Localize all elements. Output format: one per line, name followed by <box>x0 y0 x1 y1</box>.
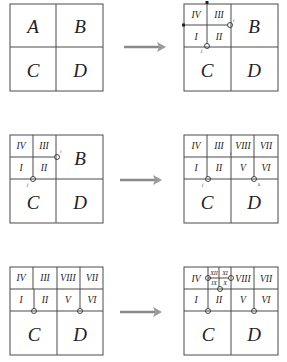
cell-i-label: I <box>18 163 23 173</box>
mark-j: j <box>26 182 29 187</box>
quadrant-b-label: B <box>248 16 260 37</box>
cell-i-label: I <box>193 32 198 42</box>
cell-iv-label: IV <box>191 10 202 20</box>
quadrant-d-label: D <box>72 60 87 81</box>
cell-iii-label: III <box>39 273 50 283</box>
cell-ii-label: II <box>215 295 223 305</box>
mark-i: i <box>230 151 232 156</box>
cell-vii-label: VII <box>86 273 99 283</box>
cell-vii-label: VII <box>260 141 273 151</box>
mark-k: k <box>258 182 261 187</box>
mark-i: i <box>60 149 62 154</box>
row3-arrow-icon <box>120 307 162 317</box>
mark-j: j <box>201 182 204 187</box>
mark-i: i <box>233 18 235 23</box>
cell-vi-label: VI <box>262 163 272 173</box>
row2-arrow-icon <box>120 175 162 185</box>
quadrant-c-label: C <box>27 192 40 213</box>
quadrant-d-label: D <box>246 324 261 345</box>
cell-v-label: V <box>240 295 247 305</box>
quadrant-d-label: D <box>72 192 87 213</box>
cell-iii-label: III <box>213 10 224 20</box>
cell-ix-label: IX <box>210 280 217 286</box>
cell-vi-label: VI <box>88 295 98 305</box>
cell-viii-label: VIII <box>235 141 251 151</box>
quadrant-c-label: C <box>27 60 40 81</box>
cell-iv-label: IV <box>16 273 27 283</box>
quadrant-d-label: D <box>246 192 261 213</box>
quadrant-d-label: D <box>72 324 87 345</box>
cell-iv-label: IV <box>16 141 27 151</box>
row1-right-grid: i j IV III I II B C D <box>182 1 278 91</box>
cell-iii-label: III <box>38 141 49 151</box>
cell-ii-label: II <box>41 295 49 305</box>
quadrant-b-label: B <box>74 16 86 37</box>
cell-ii-label: II <box>40 163 48 173</box>
cell-xi-label: XI <box>221 270 229 276</box>
quadrant-a-label: A <box>25 16 39 37</box>
cell-ii-label: II <box>215 32 223 42</box>
cell-ii-label: II <box>215 163 223 173</box>
quadtree-diagram: A B C D i j IV III I II B C D <box>0 0 287 362</box>
cell-i-label: I <box>193 295 198 305</box>
quadrant-c-label: C <box>202 324 215 345</box>
cell-vii-label: VII <box>260 274 273 284</box>
quadrant-b-label: B <box>74 148 86 169</box>
mark-j: j <box>200 48 203 53</box>
row2-right-grid: j i k IV III VIII VII I II V VI C D <box>184 135 278 223</box>
cell-iv-label: IV <box>191 274 202 284</box>
row1-arrow-icon <box>124 42 166 52</box>
cell-viii-label: VIII <box>60 273 76 283</box>
cell-v-label: V <box>240 163 247 173</box>
cell-x-label: X <box>222 280 227 286</box>
cell-iv-label: IV <box>191 141 202 151</box>
quadrant-c-label: C <box>201 60 214 81</box>
quadrant-c-label: C <box>28 324 41 345</box>
quadrant-d-label: D <box>246 60 261 81</box>
row3-left-grid: IV III VIII VII I II V VI C D <box>10 267 103 355</box>
row3-right-grid: IV XII XI IX X VIII VII I II V VI C D <box>184 267 278 355</box>
cell-v-label: V <box>65 295 72 305</box>
cell-i-label: I <box>18 295 23 305</box>
cell-vi-label: VI <box>262 295 272 305</box>
cell-xii-label: XII <box>209 270 219 276</box>
cell-viii-label: VIII <box>235 274 251 284</box>
row1-left-grid: A B C D <box>10 4 103 91</box>
row2-left-grid: i j IV III I II B C D <box>10 135 103 223</box>
quadrant-c-label: C <box>201 192 214 213</box>
cell-iii-label: III <box>213 141 224 151</box>
cell-i-label: I <box>193 163 198 173</box>
